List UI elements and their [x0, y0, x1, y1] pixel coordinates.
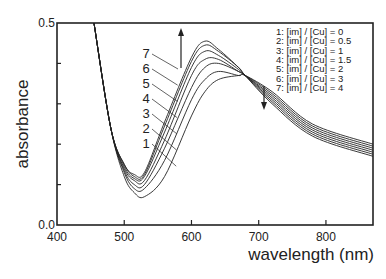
curve-label-2: 2 — [142, 121, 149, 136]
x-tick-label: 800 — [316, 230, 336, 244]
x-axis-label: wavelength (nm) — [247, 245, 374, 264]
x-tick-label: 400 — [47, 230, 67, 244]
y-tick-label: 0.5 — [38, 16, 55, 30]
x-axis-ticks: 400500600700800 — [47, 220, 336, 244]
x-tick-label: 600 — [181, 230, 201, 244]
curve-label-7: 7 — [142, 46, 149, 61]
curve-label-1: 1 — [142, 136, 149, 151]
curve-label-4: 4 — [142, 91, 149, 106]
x-tick-label: 700 — [249, 230, 269, 244]
curve-label-5: 5 — [142, 76, 149, 91]
legend-item: 7: [im] / [Cu] = 4 — [276, 82, 343, 93]
y-tick-label: 0.0 — [38, 218, 55, 232]
x-tick-label: 500 — [114, 230, 134, 244]
curve-label-6: 6 — [142, 61, 149, 76]
arrow-up-icon — [178, 28, 184, 68]
curve-label-3: 3 — [142, 106, 149, 121]
y-axis-label: absorbance — [13, 80, 32, 169]
absorbance-chart: 400500600700800 0.00.5 wavelength (nm) a… — [0, 0, 386, 279]
legend: 1: [im] / [Cu] = 02: [im] / [Cu] = 0.53:… — [276, 26, 351, 93]
chart-container: 400500600700800 0.00.5 wavelength (nm) a… — [0, 0, 386, 279]
